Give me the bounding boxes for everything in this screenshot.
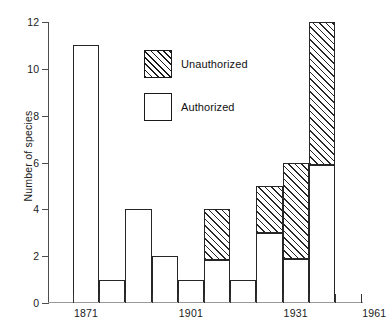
x-axis-tick (99, 294, 100, 303)
bar-segment-unauthorized[interactable] (204, 209, 230, 259)
x-axis-tick (125, 294, 126, 303)
bar[interactable] (99, 280, 125, 303)
x-axis-tick-label: 1871 (60, 307, 112, 319)
x-axis-tick (204, 294, 205, 303)
bar[interactable] (152, 256, 178, 303)
bar-segment-authorized[interactable] (73, 45, 99, 303)
bar-segment-authorized[interactable] (152, 256, 178, 303)
y-axis-tick-label: 12 (5, 16, 39, 28)
bar-segment-authorized[interactable] (204, 260, 230, 303)
bar[interactable] (283, 163, 309, 304)
bar[interactable] (178, 280, 204, 303)
y-axis-tick-label: 2 (5, 250, 39, 262)
x-axis-tick (230, 294, 231, 303)
x-axis-line (48, 302, 363, 303)
bar[interactable] (73, 45, 99, 303)
bar-segment-unauthorized[interactable] (309, 22, 335, 165)
x-axis-tick-label: 1961 (348, 307, 391, 319)
bar[interactable] (230, 280, 256, 303)
bar[interactable] (204, 209, 230, 303)
legend-item[interactable]: Unauthorized (144, 50, 248, 78)
x-axis-tick-label: 1931 (270, 307, 322, 319)
bar-segment-authorized[interactable] (230, 280, 256, 303)
legend-swatch-unauthorized-icon (144, 50, 172, 78)
y-axis-tick-label: 0 (5, 297, 39, 309)
bar-segment-authorized[interactable] (125, 209, 151, 303)
bar-segment-unauthorized[interactable] (256, 186, 282, 233)
x-axis-tick-label: 1901 (165, 307, 217, 319)
bar-segment-authorized[interactable] (99, 280, 125, 303)
bar-segment-authorized[interactable] (309, 165, 335, 303)
bar-segment-authorized[interactable] (178, 280, 204, 303)
x-axis-tick (152, 294, 153, 303)
bar[interactable] (256, 186, 282, 303)
bar[interactable] (125, 209, 151, 303)
bar-segment-authorized[interactable] (256, 233, 282, 303)
x-axis-tick (73, 294, 74, 303)
bar-segment-authorized[interactable] (283, 259, 309, 303)
legend-label: Unauthorized (181, 58, 248, 70)
legend-label: Authorized (181, 101, 235, 113)
x-axis-tick (256, 294, 257, 303)
x-axis-tick (309, 294, 310, 303)
x-axis-tick (178, 294, 179, 303)
y-axis-tick-label: 4 (5, 203, 39, 215)
x-axis-tick (283, 294, 284, 303)
y-axis-tick-label: 8 (5, 110, 39, 122)
bar[interactable] (309, 22, 335, 303)
y-axis-tick (42, 303, 49, 304)
bar-segment-unauthorized[interactable] (283, 163, 309, 259)
x-axis-tick (335, 294, 336, 303)
y-axis-tick-label: 10 (5, 63, 39, 75)
y-axis-tick-label: 6 (5, 157, 39, 169)
x-axis-tick (361, 294, 362, 303)
legend-item[interactable]: Authorized (144, 93, 235, 121)
legend-swatch-authorized-icon (144, 93, 172, 121)
